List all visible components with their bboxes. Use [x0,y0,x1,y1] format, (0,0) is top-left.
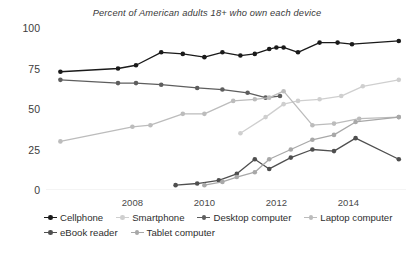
data-point [220,87,225,92]
data-point [202,112,207,117]
y-tick-label: 75 [0,64,40,75]
data-point [202,55,207,60]
legend-item-tablet-computer[interactable]: Tablet computer [131,228,215,238]
y-tick-label: 100 [0,23,40,34]
data-point [281,45,286,50]
data-point [116,66,121,71]
data-point [253,170,258,175]
series-desktop-computer [58,78,282,100]
legend-marker-icon [197,213,210,222]
x-tick-label: 2008 [102,198,162,208]
data-point [134,81,139,86]
data-point [310,147,315,152]
data-point [267,167,272,172]
data-point [397,157,402,162]
data-point [235,175,240,180]
data-point [278,94,283,99]
data-point [181,52,186,57]
data-point [317,97,322,102]
legend-item-ebook-reader[interactable]: eBook reader [44,228,118,238]
data-point [253,52,258,57]
data-point [310,137,315,142]
data-point [238,131,243,136]
data-point [220,180,225,185]
chart-legend: CellphoneSmartphoneDesktop computerLapto… [44,210,414,240]
x-tick-label: 2012 [246,198,306,208]
data-point [357,116,362,121]
series-cellphone [58,39,401,74]
data-point [332,121,337,126]
data-point [195,86,200,91]
series-laptop-computer [58,89,401,144]
chart-container: Percent of American adults 18+ who own e… [0,0,414,253]
series-line [60,91,398,141]
plot-area [46,28,406,190]
data-point [317,40,322,45]
data-point [202,183,207,188]
legend-marker-icon [44,228,57,237]
data-point [361,84,366,89]
legend-label: Laptop computer [320,213,392,223]
data-point [267,157,272,162]
data-point [159,50,164,55]
data-point [130,125,135,130]
data-point [397,39,402,44]
data-point [267,47,272,52]
data-point [253,97,258,102]
data-point [220,50,225,55]
data-point [116,81,121,86]
series-canvas [46,28,406,190]
legend-label: eBook reader [60,228,118,238]
y-tick-label: 50 [0,104,40,115]
legend-marker-icon [116,213,129,222]
data-point [148,123,153,128]
data-point [339,94,344,99]
x-tick-label: 2014 [318,198,378,208]
data-point [159,82,164,87]
legend-item-desktop-computer[interactable]: Desktop computer [197,213,291,223]
legend-marker-icon [44,213,57,222]
legend-label: Cellphone [60,213,103,223]
data-point [58,139,63,144]
data-point [274,45,279,50]
legend-item-cellphone[interactable]: Cellphone [44,213,103,223]
data-point [296,99,301,104]
legend-label: Desktop computer [213,213,291,223]
data-point [289,147,294,152]
legend-item-smartphone[interactable]: Smartphone [116,213,184,223]
legend-item-laptop-computer[interactable]: Laptop computer [304,213,392,223]
data-point [332,133,337,138]
legend-row: eBook readerTablet computer [44,225,414,240]
data-point [173,183,178,188]
data-point [310,123,315,128]
data-point [353,120,358,125]
data-point [134,63,139,68]
legend-marker-icon [131,228,144,237]
data-point [397,115,402,120]
data-point [335,40,340,45]
data-point [195,181,200,186]
series-tablet-computer [202,115,401,188]
legend-label: Tablet computer [147,228,215,238]
data-point [253,157,258,162]
data-point [397,78,402,83]
data-point [296,50,301,55]
x-tick-label: 2010 [174,198,234,208]
series-line [176,138,399,185]
legend-marker-icon [304,213,317,222]
data-point [58,69,63,74]
data-point [281,102,286,107]
chart-title: Percent of American adults 18+ who own e… [0,8,414,18]
series-ebook-reader [173,136,401,188]
data-point [238,53,243,58]
data-point [263,115,268,120]
legend-label: Smartphone [132,213,184,223]
data-point [267,95,272,100]
data-point [332,149,337,154]
data-point [353,136,358,141]
legend-row: CellphoneSmartphoneDesktop computerLapto… [44,210,414,225]
data-point [58,78,63,83]
y-tick-label: 25 [0,145,40,156]
data-point [245,91,250,96]
series-line [60,41,398,72]
